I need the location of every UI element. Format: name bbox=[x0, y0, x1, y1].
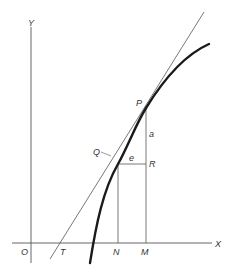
origin-label: O bbox=[21, 247, 28, 257]
y-axis-label: Y bbox=[28, 18, 35, 28]
point-n-label: N bbox=[113, 247, 120, 257]
point-r-label: R bbox=[149, 159, 156, 169]
point-m-label: M bbox=[141, 247, 149, 257]
segment-e-label: e bbox=[129, 153, 134, 163]
tangent-line bbox=[50, 12, 204, 259]
point-t-label: T bbox=[60, 247, 67, 257]
segment-a-label: a bbox=[149, 129, 154, 139]
curve bbox=[90, 44, 209, 263]
point-p-label: P bbox=[136, 98, 142, 108]
point-q-label: Q bbox=[93, 147, 100, 157]
x-axis-label: X bbox=[214, 239, 222, 249]
q-leader-line bbox=[101, 152, 111, 156]
tangent-curve-diagram: Y X O T N M P Q R a e bbox=[0, 0, 232, 275]
